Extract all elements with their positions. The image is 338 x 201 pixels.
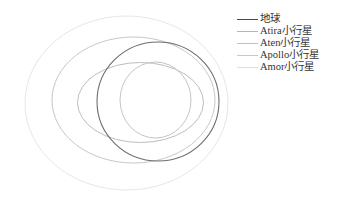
legend-item-amor: Amor小行星: [237, 61, 319, 73]
legend-item-earth: 地球: [237, 13, 319, 25]
orbit-aten: [120, 62, 191, 138]
legend-label-aten: Aten小行星: [260, 37, 310, 49]
legend-item-aten: Aten小行星: [237, 37, 319, 49]
legend-label-amor: Amor小行星: [260, 61, 315, 73]
legend-line-aten: [237, 43, 258, 44]
legend-label-atira: Atira小行星: [260, 25, 312, 37]
legend-item-apollo: Apollo小行星: [237, 49, 319, 61]
orbit-atira: [78, 63, 204, 143]
legend-line-apollo: [237, 55, 258, 56]
legend-item-atira: Atira小行星: [237, 25, 319, 37]
legend: 地球 Atira小行星 Aten小行星 Apollo小行星 Amor小行星: [237, 13, 319, 73]
orbit-amor: [25, 16, 228, 190]
legend-line-atira: [237, 31, 258, 32]
orbit-earth: [97, 42, 219, 161]
legend-line-earth: [237, 19, 258, 20]
legend-line-amor: [237, 67, 258, 68]
legend-label-earth: 地球: [260, 13, 280, 25]
legend-label-apollo: Apollo小行星: [260, 49, 319, 61]
